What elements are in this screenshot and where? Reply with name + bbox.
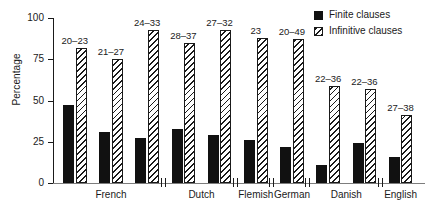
legend-swatch-finite-icon bbox=[314, 11, 323, 20]
bar-finite-1 bbox=[99, 132, 110, 183]
y-tick-75 bbox=[48, 59, 53, 60]
bar-finite-2 bbox=[135, 138, 146, 183]
value-label-0: 20–23 bbox=[52, 35, 98, 46]
bar-finite-9 bbox=[389, 157, 400, 183]
chart-root: Percentage 0255075100 20–2321–2724–3328–… bbox=[0, 0, 434, 210]
bar-infinitive-7 bbox=[329, 86, 340, 183]
bar-finite-6 bbox=[280, 147, 291, 183]
bar-finite-7 bbox=[316, 165, 327, 183]
x-group-label-english: English bbox=[361, 189, 434, 200]
bar-finite-8 bbox=[353, 143, 364, 183]
axis-break-4 bbox=[377, 178, 384, 187]
value-label-3: 28–37 bbox=[160, 30, 206, 41]
axis-break-3 bbox=[304, 178, 311, 187]
legend-swatch-infinitive-icon bbox=[314, 27, 323, 36]
y-tick-label-75: 75 bbox=[14, 53, 44, 64]
bar-finite-5 bbox=[244, 140, 255, 183]
axis-break-0 bbox=[160, 178, 167, 187]
bar-infinitive-8 bbox=[365, 89, 376, 183]
value-label-8: 22–36 bbox=[341, 76, 387, 87]
y-tick-label-100: 100 bbox=[14, 12, 44, 23]
bar-infinitive-9 bbox=[401, 115, 412, 183]
bar-infinitive-1 bbox=[112, 59, 123, 183]
bar-infinitive-2 bbox=[148, 30, 159, 183]
value-label-2: 24–33 bbox=[124, 17, 170, 28]
bar-infinitive-4 bbox=[220, 30, 231, 183]
bar-infinitive-5 bbox=[257, 38, 268, 183]
value-label-1: 21–27 bbox=[88, 46, 134, 57]
y-tick-100 bbox=[48, 18, 53, 19]
axis-break-2 bbox=[268, 178, 275, 187]
y-tick-0 bbox=[48, 183, 53, 184]
y-axis-title: Percentage bbox=[11, 20, 22, 140]
legend-label-infinitive: Infinitive clauses bbox=[329, 25, 402, 36]
y-tick-25 bbox=[48, 142, 53, 143]
x-group-label-french: French bbox=[71, 189, 151, 200]
bar-infinitive-6 bbox=[293, 39, 304, 183]
value-label-6: 20–49 bbox=[269, 26, 315, 37]
bar-finite-0 bbox=[63, 105, 74, 183]
value-label-9: 27–38 bbox=[378, 102, 424, 113]
y-tick-label-50: 50 bbox=[14, 95, 44, 106]
legend-label-finite: Finite clauses bbox=[329, 9, 390, 20]
axis-break-1 bbox=[232, 178, 239, 187]
y-tick-label-25: 25 bbox=[14, 136, 44, 147]
y-tick-label-0: 0 bbox=[14, 177, 44, 188]
bar-finite-3 bbox=[172, 129, 183, 183]
bar-finite-4 bbox=[208, 135, 219, 183]
bar-infinitive-0 bbox=[76, 48, 87, 183]
x-axis-line bbox=[53, 183, 425, 184]
y-tick-50 bbox=[48, 101, 53, 102]
bar-infinitive-3 bbox=[184, 43, 195, 183]
